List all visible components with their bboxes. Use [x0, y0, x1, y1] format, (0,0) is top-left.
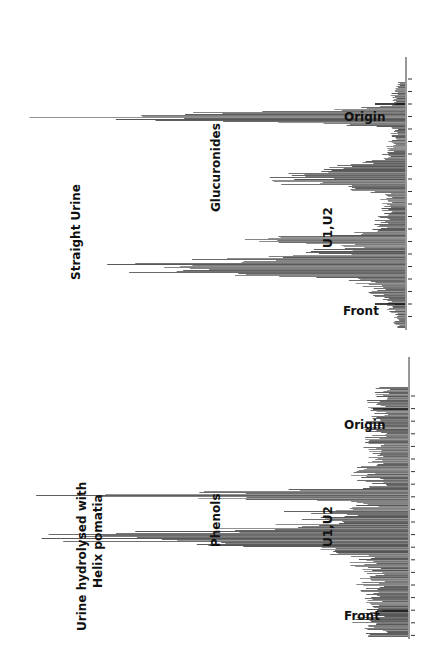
- panel-title: Straight Urine: [70, 184, 83, 280]
- peak-label-phenols: Phenols: [210, 493, 223, 547]
- front-label: Front: [344, 609, 380, 623]
- front-label: Front: [343, 304, 379, 318]
- panel-hydrolysed-urine: Urine hydrolysed with Helix pomatia Phen…: [0, 335, 445, 670]
- panel-title-line2: Helix pomatia: [91, 494, 105, 588]
- panel-straight-urine: Straight Urine Glucuronides U1,U2 Origin…: [0, 0, 445, 335]
- peak-label-glucuronides: Glucuronides: [210, 123, 223, 212]
- origin-label: Origin: [344, 110, 385, 124]
- origin-label: Origin: [344, 418, 385, 432]
- peak-label-u1u2: U1,U2: [322, 506, 335, 547]
- peak-label-u1u2: U1,U2: [322, 207, 335, 248]
- panel-title-line1: Urine hydrolysed with: [75, 482, 89, 631]
